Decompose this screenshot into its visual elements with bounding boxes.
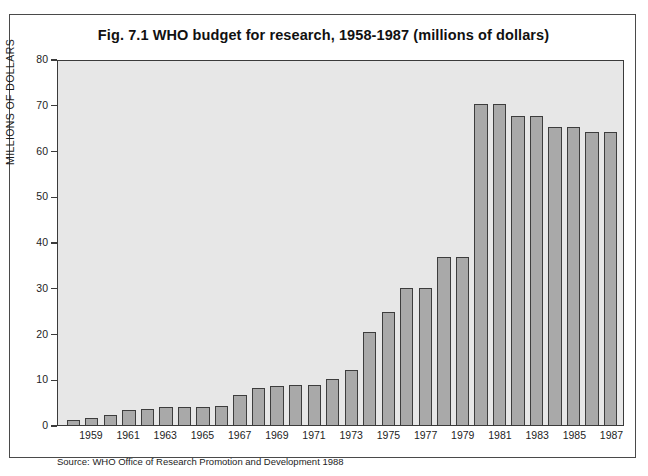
x-axis-tick-label: 1971 xyxy=(302,429,325,441)
bar-slot xyxy=(101,61,120,425)
bar-slot xyxy=(435,61,454,425)
bar xyxy=(437,257,450,425)
bar-slot xyxy=(601,61,620,425)
y-axis-tick-label: 10 xyxy=(36,373,48,385)
bar-slot xyxy=(305,61,324,425)
x-axis-slot: 1977 xyxy=(416,429,435,447)
bar xyxy=(178,407,191,425)
bar-slot xyxy=(138,61,157,425)
bar-slot xyxy=(268,61,287,425)
bar xyxy=(567,127,580,425)
bar xyxy=(419,288,432,425)
figure-root: Fig. 7.1 WHO budget for research, 1958-1… xyxy=(0,0,648,476)
x-axis-tick-label: 1963 xyxy=(154,429,177,441)
x-axis-slot: 1985 xyxy=(565,429,584,447)
bar xyxy=(233,395,246,425)
bar-slot xyxy=(194,61,213,425)
x-axis-tick-label: 1981 xyxy=(488,429,511,441)
bar xyxy=(289,385,302,425)
x-axis-tick-label: 1973 xyxy=(340,429,363,441)
figure-frame: Fig. 7.1 WHO budget for research, 1958-1… xyxy=(9,14,636,458)
bar xyxy=(530,116,543,425)
bar xyxy=(270,386,283,425)
bar-slot xyxy=(416,61,435,425)
bar xyxy=(85,418,98,425)
bar-slot xyxy=(231,61,250,425)
x-axis-tick-label: 1965 xyxy=(191,429,214,441)
page-title: Fig. 7.1 WHO budget for research, 1958-1… xyxy=(10,27,637,43)
y-axis-tick-label: 30 xyxy=(36,282,48,294)
bar xyxy=(493,104,506,425)
bar xyxy=(104,415,117,425)
bar xyxy=(548,127,561,425)
bar-slot xyxy=(546,61,565,425)
bar-slot xyxy=(490,61,509,425)
bar-slot xyxy=(212,61,231,425)
x-axis-slot: 1981 xyxy=(491,429,510,447)
x-axis-slot: 1963 xyxy=(156,429,175,447)
bar xyxy=(215,406,228,425)
bar xyxy=(474,104,487,425)
y-axis: 01020304050607080 xyxy=(10,60,57,426)
x-axis-tick-label: 1959 xyxy=(79,429,102,441)
bar xyxy=(511,116,524,425)
bar xyxy=(326,379,339,425)
bar xyxy=(252,388,265,425)
x-axis-slot: 1967 xyxy=(230,429,249,447)
bar-slot xyxy=(249,61,268,425)
bar xyxy=(363,332,376,425)
x-axis-slot: 1971 xyxy=(305,429,324,447)
x-axis-tick-label: 1977 xyxy=(414,429,437,441)
x-axis-slot: 1973 xyxy=(342,429,361,447)
x-axis-tick-label: 1961 xyxy=(116,429,139,441)
x-axis-slot: 1975 xyxy=(379,429,398,447)
bar-slot xyxy=(120,61,139,425)
bar xyxy=(456,257,469,425)
bar-slot xyxy=(472,61,491,425)
bar-series xyxy=(58,61,623,425)
x-axis-slot: 1965 xyxy=(193,429,212,447)
bar-slot xyxy=(583,61,602,425)
plot-area xyxy=(57,60,624,426)
x-axis-slot: 1983 xyxy=(528,429,547,447)
bar-slot xyxy=(361,61,380,425)
bar xyxy=(382,312,395,425)
bar-slot xyxy=(509,61,528,425)
bar-slot xyxy=(453,61,472,425)
y-axis-tick-label: 80 xyxy=(36,53,48,65)
bar-slot xyxy=(64,61,83,425)
y-axis-tick-label: 0 xyxy=(42,419,48,431)
bar-slot xyxy=(527,61,546,425)
y-axis-tick-label: 50 xyxy=(36,190,48,202)
bar xyxy=(400,288,413,425)
bar-slot xyxy=(342,61,361,425)
x-axis-tick-label: 1969 xyxy=(265,429,288,441)
bar-slot xyxy=(157,61,176,425)
bar xyxy=(585,132,598,425)
bar xyxy=(67,420,80,425)
bar-slot xyxy=(83,61,102,425)
y-axis-title: MILLIONS OF DOLLARS xyxy=(4,39,16,165)
bar xyxy=(604,132,617,425)
x-axis-slot: 1961 xyxy=(119,429,138,447)
x-axis-tick-label: 1987 xyxy=(600,429,623,441)
bar xyxy=(308,385,321,425)
x-axis-tick-label: 1979 xyxy=(451,429,474,441)
bar-slot xyxy=(286,61,305,425)
bar xyxy=(122,410,135,425)
x-axis-slot: 1969 xyxy=(268,429,287,447)
y-axis-tick-label: 20 xyxy=(36,328,48,340)
bar xyxy=(159,407,172,425)
y-axis-tick-label: 40 xyxy=(36,236,48,248)
bar-slot xyxy=(564,61,583,425)
bar xyxy=(196,407,209,425)
bar-slot xyxy=(175,61,194,425)
x-axis-slot: 1979 xyxy=(453,429,472,447)
x-axis-slot: 1959 xyxy=(82,429,101,447)
x-axis-tick-label: 1985 xyxy=(563,429,586,441)
bar-slot xyxy=(379,61,398,425)
x-axis-tick-label: 1975 xyxy=(377,429,400,441)
y-axis-tick-label: 60 xyxy=(36,145,48,157)
x-axis-tick-label: 1983 xyxy=(525,429,548,441)
x-axis-slot: 1987 xyxy=(602,429,621,447)
